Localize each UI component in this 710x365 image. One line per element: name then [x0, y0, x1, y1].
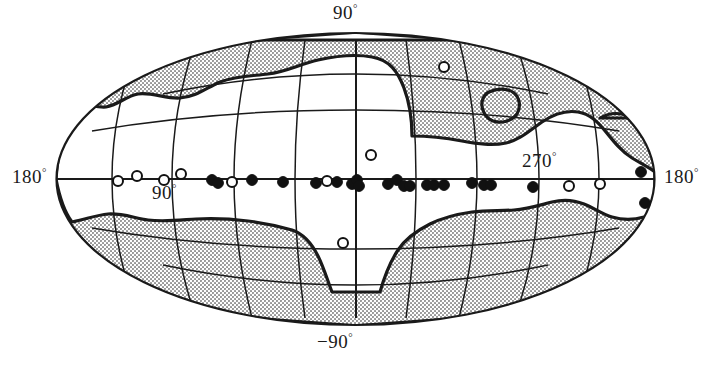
- all-sky-map-figure: 90° −90° 180° 180° 90° 270°: [0, 0, 710, 365]
- data-point-open: [564, 181, 574, 191]
- data-point-filled: [213, 178, 224, 189]
- axis-label-inner-270: 270°: [522, 150, 557, 172]
- axis-label-right-value: 180: [664, 166, 694, 187]
- axis-label-top-90: 90°: [333, 2, 358, 24]
- data-point-filled: [332, 177, 343, 188]
- axis-label-left-180: 180°: [12, 166, 47, 188]
- data-point-open: [595, 179, 605, 189]
- axis-label-bottom-minus90: −90°: [317, 331, 353, 353]
- data-point-filled: [278, 177, 289, 188]
- data-point-filled: [354, 181, 365, 192]
- axis-label-right-degree: °: [694, 166, 699, 178]
- data-point-open: [338, 238, 348, 248]
- data-point-open: [176, 169, 186, 179]
- data-point-open: [439, 62, 449, 72]
- data-point-open: [366, 150, 376, 160]
- data-point-filled: [640, 198, 651, 209]
- data-point-open: [322, 176, 332, 186]
- data-point-open: [227, 177, 237, 187]
- data-point-filled: [247, 175, 258, 186]
- axis-label-bottom-degree: °: [348, 331, 353, 343]
- data-point-filled: [636, 167, 647, 178]
- axis-label-inner-270-degree: °: [552, 150, 557, 162]
- axis-label-inner-270-value: 270: [522, 150, 552, 171]
- sky-map-svg: [0, 0, 710, 365]
- axis-label-top-degree: °: [353, 2, 358, 14]
- data-point-filled: [467, 178, 478, 189]
- axis-label-bottom-value: −90: [317, 331, 348, 352]
- data-point-filled: [311, 178, 322, 189]
- axis-label-inner-90-value: 90: [152, 182, 172, 203]
- axis-label-top-value: 90: [333, 2, 353, 23]
- axis-label-inner-90-degree: °: [172, 182, 177, 194]
- data-point-filled: [528, 182, 539, 193]
- data-point-open: [132, 171, 142, 181]
- data-point-filled: [439, 180, 450, 191]
- axis-label-right-180: 180°: [664, 166, 699, 188]
- data-point-filled: [486, 180, 497, 191]
- data-point-filled: [405, 181, 416, 192]
- axis-label-left-value: 180: [12, 166, 42, 187]
- axis-label-left-degree: °: [42, 166, 47, 178]
- axis-label-inner-90: 90°: [152, 182, 177, 204]
- data-point-filled: [429, 180, 440, 191]
- data-point-open: [113, 176, 123, 186]
